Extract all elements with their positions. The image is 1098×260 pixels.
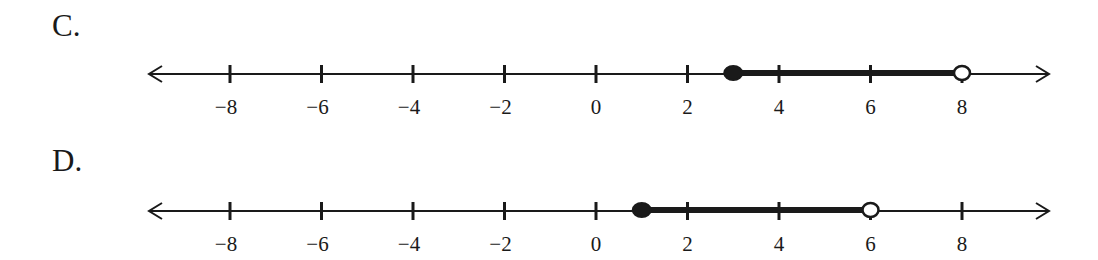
tick-label: 6 [865, 95, 876, 119]
tick-label: −8 [215, 95, 237, 119]
tick-label: 4 [774, 232, 785, 256]
open-endpoint [863, 203, 879, 217]
tick-label: −2 [489, 95, 511, 119]
tick-label: −2 [489, 232, 511, 256]
tick-label: 0 [591, 95, 602, 119]
tick-label: 8 [957, 95, 968, 119]
closed-endpoint [724, 66, 742, 80]
tick-label: 2 [682, 95, 693, 119]
tick-label: −6 [306, 232, 328, 256]
number-line-c: −8−6−4−202468 [0, 0, 1098, 130]
number-line-d: −8−6−4−202468 [0, 137, 1098, 260]
tick-label: 0 [591, 232, 602, 256]
tick-label: −4 [398, 232, 421, 256]
tick-label: 8 [957, 232, 968, 256]
tick-label: 2 [682, 232, 693, 256]
closed-endpoint [633, 203, 651, 217]
open-endpoint [954, 66, 970, 80]
tick-label: 4 [774, 95, 785, 119]
tick-label: −8 [215, 232, 237, 256]
tick-label: −6 [306, 95, 328, 119]
tick-label: −4 [398, 95, 421, 119]
tick-label: 6 [865, 232, 876, 256]
